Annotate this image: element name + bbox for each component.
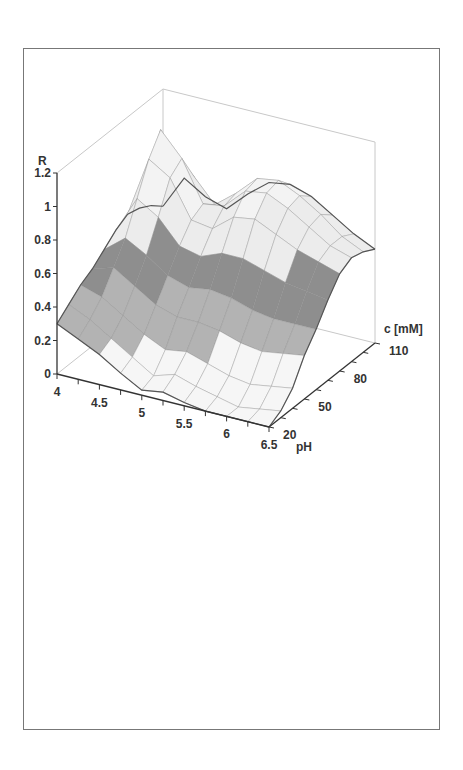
z-tick-label: 0.6 [34, 267, 51, 281]
x-tick-label: 6 [223, 427, 230, 441]
x-tick-label: 5 [138, 406, 145, 420]
z-tick-label: 0.4 [34, 300, 51, 314]
x-tick-label: 6.5 [261, 438, 278, 452]
y-tick-label: 80 [354, 372, 368, 386]
y-tick-label: 110 [389, 344, 409, 358]
z-tick-label: 0.8 [34, 233, 51, 247]
y-tick-label: 50 [318, 400, 332, 414]
surface-plot: 00.20.40.60.811.244.555.566.5205080110 R… [0, 0, 463, 770]
z-axis-label: R [38, 154, 47, 168]
x-tick-label: 5.5 [176, 417, 193, 431]
z-tick-label: 0 [44, 367, 51, 381]
x-tick-label: 4 [54, 385, 61, 399]
x-axis-label: pH [296, 440, 312, 454]
z-tick-label: 1.2 [34, 166, 51, 180]
y-tick-label: 20 [283, 428, 297, 442]
x-tick-label: 4.5 [91, 396, 108, 410]
surface-mesh [57, 130, 375, 427]
z-tick-label: 1 [44, 200, 51, 214]
z-tick-label: 0.2 [34, 334, 51, 348]
y-axis-label: c [mM] [384, 322, 423, 336]
